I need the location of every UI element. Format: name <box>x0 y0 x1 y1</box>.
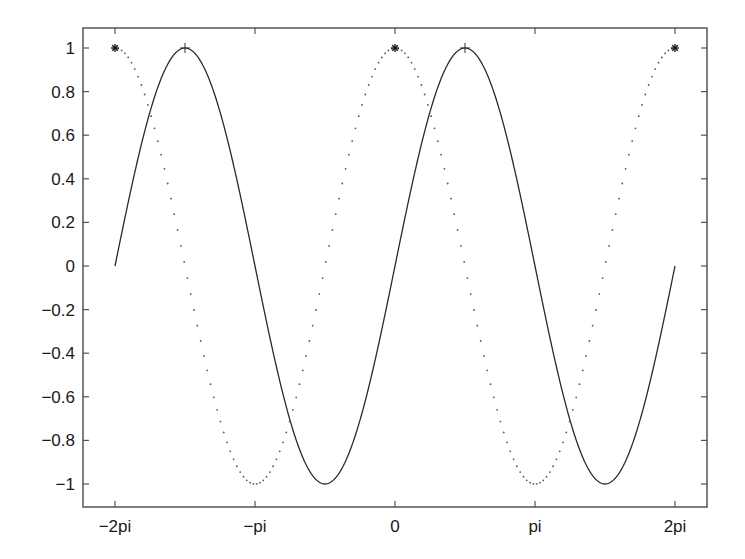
y-tick-label: 0.2 <box>51 213 75 232</box>
y-tick-label: −0.8 <box>41 431 75 450</box>
x-tick-label: 2pi <box>664 517 687 536</box>
y-tick-label: −0.6 <box>41 388 75 407</box>
x-tick-label: −2pi <box>99 517 132 536</box>
line-chart: −2pi−pi0pi2pi 10.80.60.40.20−0.2−0.4−0.6… <box>0 0 745 559</box>
y-tick-label: 1 <box>66 39 75 58</box>
x-tick-label: pi <box>528 517 541 536</box>
asterisk-marker <box>671 44 679 52</box>
y-axis-tick-labels: 10.80.60.40.20−0.2−0.4−0.6−0.8−1 <box>41 39 75 494</box>
y-tick-label: −1 <box>56 475 75 494</box>
y-tick-label: 0.8 <box>51 83 75 102</box>
x-axis-tick-labels: −2pi−pi0pi2pi <box>99 517 687 536</box>
y-tick-label: 0.6 <box>51 126 75 145</box>
x-tick-label: −pi <box>243 517 266 536</box>
y-tick-label: −0.4 <box>41 344 75 363</box>
asterisk-marker <box>111 44 119 52</box>
y-tick-label: 0.4 <box>51 170 75 189</box>
y-tick-label: −0.2 <box>41 301 75 320</box>
y-tick-label: 0 <box>66 257 75 276</box>
asterisk-marker <box>391 44 399 52</box>
x-tick-label: 0 <box>390 517 399 536</box>
